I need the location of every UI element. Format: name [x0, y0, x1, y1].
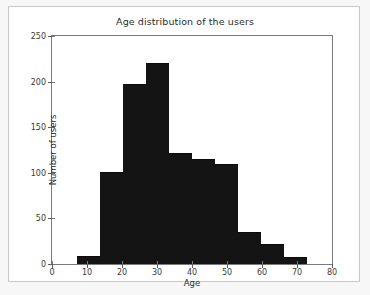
plot-area: 050100150200250 01020304050607080 Number… [51, 35, 333, 265]
y-tick-label: 200 [31, 77, 46, 86]
y-tick-label: 250 [31, 32, 46, 41]
histogram-bar [215, 164, 238, 264]
x-tick-mark-inner [87, 261, 88, 264]
x-tick-label: 0 [49, 268, 54, 277]
screenshot-root: Age distribution of the users 0501001502… [0, 0, 370, 295]
x-tick-mark-inner [192, 261, 193, 264]
histogram-bars [52, 36, 332, 264]
x-tick-label: 60 [257, 268, 267, 277]
x-tick-mark-inner [262, 261, 263, 264]
x-tick-mark-inner [332, 261, 333, 264]
y-tick-label: 0 [41, 260, 46, 269]
x-tick-mark-inner [227, 261, 228, 264]
histogram-bar [100, 172, 123, 264]
x-tick-mark-inner [122, 261, 123, 264]
figure-frame: Age distribution of the users 0501001502… [8, 6, 360, 282]
histogram-bar [238, 232, 261, 264]
chart-title: Age distribution of the users [9, 16, 361, 27]
histogram-bar [77, 256, 100, 264]
x-tick-mark-inner [297, 261, 298, 264]
y-tick-mark-inner [52, 36, 55, 37]
y-axis-title: Number of users [48, 115, 58, 186]
x-tick-label: 80 [327, 268, 337, 277]
y-tick-label: 50 [36, 214, 46, 223]
x-axis-title: Age [52, 278, 332, 288]
histogram-bar [146, 63, 169, 264]
histogram-bar [284, 257, 307, 264]
x-tick-label: 40 [187, 268, 197, 277]
histogram-bar [261, 244, 284, 264]
x-tick-label: 30 [152, 268, 162, 277]
x-tick-mark-inner [157, 261, 158, 264]
y-tick-mark-inner [52, 218, 55, 219]
y-tick-label: 100 [31, 168, 46, 177]
y-tick-mark-inner [52, 82, 55, 83]
x-tick-mark-inner [52, 261, 53, 264]
x-tick-label: 10 [82, 268, 92, 277]
x-tick-label: 50 [222, 268, 232, 277]
x-tick-label: 20 [117, 268, 127, 277]
histogram-bar [169, 153, 192, 264]
x-tick-label: 70 [292, 268, 302, 277]
y-tick-label: 150 [31, 123, 46, 132]
histogram-bar [123, 84, 146, 264]
histogram-bar [192, 159, 215, 264]
